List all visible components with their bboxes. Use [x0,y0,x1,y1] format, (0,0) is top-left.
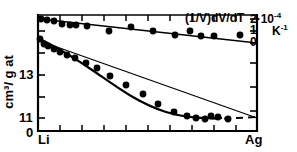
y-tick-label-13: 13 [19,68,33,81]
right-axis-unit-exponent: -1 [281,23,288,32]
axis-frame [38,14,258,132]
right-tick-top-exponent: -4 [274,11,281,20]
y-axis-label-left-text: cm³/ g at [2,34,15,130]
y-tick-label-11: 11 [19,111,33,124]
ideal-mixing-line [40,41,257,118]
lower-series-points [37,36,232,123]
right-axis-unit-symbol: K [272,24,281,38]
x-endpoint-label-li: Li [38,133,50,146]
figure-container: cm³/ g at 13 11 0 Li Ag (1/V)dV/dT 2·10-… [0,0,297,152]
x-endpoint-label-ag: Ag [245,133,262,146]
y-tick-label-origin: 0 [26,126,33,139]
right-tick-label-bottom: 0 [250,36,257,48]
right-axis-unit: K-1 [272,24,288,37]
right-axis-label: (1/V)dV/dT [185,12,244,24]
